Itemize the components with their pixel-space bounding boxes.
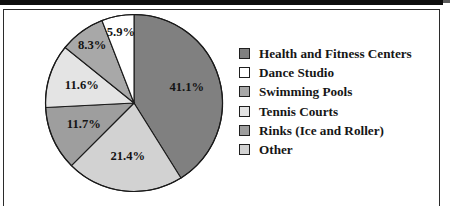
legend-swatch-icon — [239, 86, 250, 97]
pie-chart: 41.1%21.4%11.7%11.6%8.3%5.9% — [45, 14, 223, 192]
legend-item[interactable]: Other — [239, 140, 434, 159]
pie-slice-label: 8.3% — [78, 38, 106, 52]
pie-slice-label: 11.7% — [67, 117, 101, 131]
legend-item[interactable]: Rinks (Ice and Roller) — [239, 121, 434, 140]
legend-item[interactable]: Health and Fitness Centers — [239, 44, 434, 63]
pie-slice-label: 11.6% — [65, 78, 99, 92]
legend-item-label: Health and Fitness Centers — [259, 47, 412, 60]
chart-legend: Health and Fitness CentersDance StudioSw… — [239, 44, 434, 159]
legend-swatch-icon — [239, 48, 250, 59]
pie-slice-label: 21.4% — [110, 149, 145, 163]
legend-swatch-icon — [239, 144, 250, 155]
legend-item[interactable]: Dance Studio — [239, 63, 434, 82]
legend-item-label: Dance Studio — [259, 66, 334, 79]
legend-item[interactable]: Swimming Pools — [239, 82, 434, 101]
legend-item-label: Tennis Courts — [259, 105, 338, 118]
pie-slice-label: 5.9% — [107, 25, 135, 39]
pie-slice-label: 41.1% — [169, 80, 204, 94]
legend-item-label: Rinks (Ice and Roller) — [259, 124, 384, 137]
page-edge-bar-tail — [443, 0, 450, 3]
legend-swatch-icon — [239, 125, 250, 136]
legend-swatch-icon — [239, 106, 250, 117]
pie-slice-group — [45, 14, 222, 191]
page-edge-bar — [0, 0, 443, 5]
legend-item[interactable]: Tennis Courts — [239, 102, 434, 121]
legend-item-label: Swimming Pools — [259, 85, 352, 98]
legend-swatch-icon — [239, 67, 250, 78]
legend-item-label: Other — [259, 143, 293, 156]
pie-chart-svg: 41.1%21.4%11.7%11.6%8.3%5.9% — [45, 14, 223, 192]
figure-root: 41.1%21.4%11.7%11.6%8.3%5.9% Health and … — [0, 0, 450, 206]
